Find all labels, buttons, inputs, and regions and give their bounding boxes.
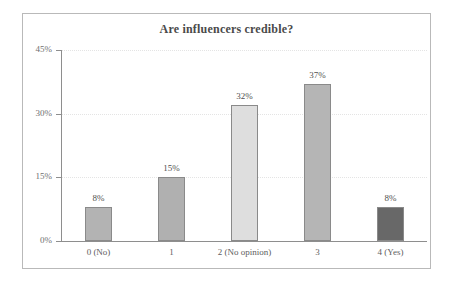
- bar-value-label: 8%: [361, 193, 421, 203]
- bar: [158, 177, 185, 241]
- gridline: [62, 50, 427, 51]
- bar: [304, 84, 331, 241]
- bar: [377, 207, 404, 241]
- bar-value-label: 32%: [215, 91, 275, 101]
- y-axis-tick: [56, 50, 61, 51]
- plot-area: [62, 50, 427, 241]
- bar-value-label: 15%: [142, 163, 202, 173]
- chart-title: Are influencers credible?: [22, 22, 431, 37]
- y-axis-tick: [56, 241, 61, 242]
- x-axis-line: [61, 241, 427, 242]
- y-axis-line: [61, 50, 62, 242]
- bar-chart-figure: Are influencers credible? 0%15%30%45%8%0…: [0, 0, 452, 286]
- y-axis-tick-label: 15%: [6, 171, 52, 181]
- y-axis-tick: [56, 114, 61, 115]
- x-axis-tick-label: 4 (Yes): [341, 247, 441, 257]
- bar: [85, 207, 112, 241]
- y-axis-tick-label: 0%: [6, 235, 52, 245]
- y-axis-tick: [56, 177, 61, 178]
- bar: [231, 105, 258, 241]
- y-axis-tick-label: 45%: [6, 44, 52, 54]
- bar-value-label: 37%: [288, 70, 348, 80]
- bar-value-label: 8%: [69, 193, 129, 203]
- y-axis-tick-label: 30%: [6, 108, 52, 118]
